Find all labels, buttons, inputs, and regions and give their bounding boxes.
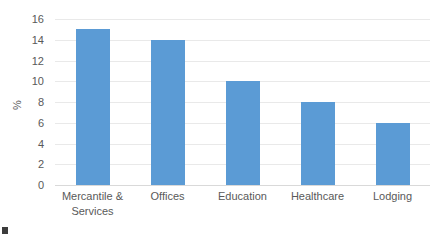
plot-area (55, 19, 430, 185)
bar-slot (55, 19, 130, 185)
bar-slot (205, 19, 280, 185)
y-axis-tick-label: 10 (32, 74, 44, 88)
y-axis-tick-label: 8 (38, 95, 44, 109)
corner-artifact (2, 227, 8, 234)
bar-chart: % 0246810121416 Mercantile & ServicesOff… (0, 0, 438, 236)
y-axis-tick-label: 14 (32, 33, 44, 47)
bar[interactable] (76, 29, 110, 185)
bar-slot (355, 19, 430, 185)
x-axis-category-label: Education (205, 189, 280, 204)
bar[interactable] (226, 81, 260, 185)
x-axis-category-label: Lodging (355, 189, 430, 204)
bar[interactable] (376, 123, 410, 185)
bar-slot (280, 19, 355, 185)
y-axis-tick-label: 12 (32, 54, 44, 68)
x-axis-category-label: Offices (130, 189, 205, 204)
y-axis-tick-label: 6 (38, 116, 44, 130)
x-axis-category-labels: Mercantile & ServicesOfficesEducationHea… (55, 189, 430, 233)
y-axis-tick-label: 0 (38, 178, 44, 192)
x-axis-category-label: Mercantile & Services (55, 189, 130, 219)
bars-group (55, 19, 430, 185)
bar-slot (130, 19, 205, 185)
x-axis-category-label: Healthcare (280, 189, 355, 204)
bar[interactable] (301, 102, 335, 185)
y-axis-tick-label: 16 (32, 12, 44, 26)
y-axis-tick-labels: 0246810121416 (0, 0, 52, 236)
y-axis-tick-label: 2 (38, 157, 44, 171)
bar[interactable] (151, 40, 185, 185)
axis-baseline (55, 185, 430, 186)
y-axis-tick-label: 4 (38, 137, 44, 151)
